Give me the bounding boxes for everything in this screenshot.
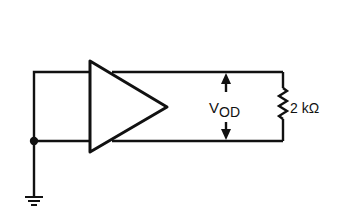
resistor-value-label: 2 kΩ xyxy=(290,100,319,116)
ground-icon xyxy=(25,197,43,205)
circuit-diagram: VOD 2 kΩ xyxy=(0,0,345,222)
junction-dot xyxy=(30,137,38,145)
vod-label: VOD xyxy=(209,99,240,120)
amplifier-triangle-icon xyxy=(90,61,167,152)
input-wire xyxy=(34,72,90,141)
resistor-icon xyxy=(279,88,287,119)
